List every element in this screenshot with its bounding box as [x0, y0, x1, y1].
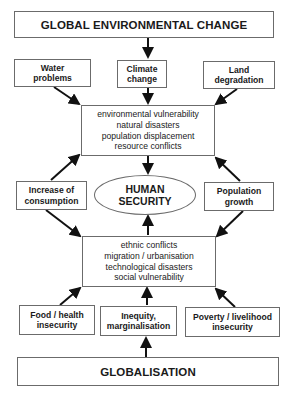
food-health-insecurity-box: Food / health insecurity [19, 305, 95, 335]
effect-migration-urbanisation: migration / urbanisation [104, 251, 193, 262]
arrow-land-to-effects [216, 89, 237, 104]
poverty-line2: insecurity [212, 322, 253, 333]
land-degradation-line1: Land [229, 65, 250, 76]
arrow-population-to-upper [216, 158, 240, 181]
effect-environmental-vulnerability: environmental vulnerability [97, 109, 199, 120]
food-health-line1: Food / health [30, 310, 83, 321]
poverty-line1: Poverty / livelihood [193, 312, 272, 323]
consumption-line1: Increase of [29, 185, 74, 196]
consumption-line2: consumption [25, 196, 79, 207]
land-degradation-line2: degradation [214, 75, 263, 86]
human-security-line1: HUMAN [125, 183, 164, 196]
environmental-effects-box: environmental vulnerability natural disa… [81, 105, 215, 156]
arrow-poverty-to-lower [216, 289, 235, 307]
human-security-line2: SECURITY [118, 195, 171, 208]
arrow-water-to-effects [54, 87, 79, 104]
arrow-food-to-lower [60, 288, 80, 305]
globalisation-label: GLOBALISATION [100, 366, 196, 378]
arrow-consumption-to-upper [51, 155, 79, 180]
climate-change-line2: change [127, 74, 157, 85]
land-degradation-box: Land degradation [203, 61, 275, 89]
population-line2: growth [225, 197, 254, 208]
global-environmental-change-box: GLOBAL ENVIRONMENTAL CHANGE [14, 11, 274, 38]
poverty-livelihood-insecurity-box: Poverty / livelihood insecurity [185, 307, 280, 337]
inequity-line2: marginalisation [107, 321, 171, 332]
human-security-ellipse: HUMAN SECURITY [94, 175, 196, 215]
arrow-consumption-to-lower [46, 210, 80, 236]
inequity-marginalisation-box: Inequity, marginalisation [100, 306, 177, 336]
effect-ethnic-conflicts: ethnic conflicts [121, 240, 177, 251]
effect-natural-disasters: natural disasters [116, 120, 179, 131]
effect-population-displacement: population displacement [102, 131, 195, 142]
food-health-line2: insecurity [37, 320, 78, 331]
population-growth-box: Population growth [204, 182, 274, 211]
population-line1: Population [217, 186, 261, 197]
climate-change-line1: Climate [126, 64, 157, 75]
water-problems-box: Water problems [14, 59, 91, 87]
inequity-line1: Inequity, [121, 311, 156, 322]
effect-resource-conflicts: resource conflicts [115, 141, 182, 152]
effect-technological-disasters: technological disasters [106, 262, 193, 273]
effect-social-vulnerability: social vulnerability [114, 272, 184, 283]
global-environmental-change-label: GLOBAL ENVIRONMENTAL CHANGE [41, 19, 248, 31]
social-effects-box: ethnic conflicts migration / urbanisatio… [82, 236, 216, 287]
arrow-population-to-lower [217, 211, 243, 236]
increase-of-consumption-box: Increase of consumption [16, 181, 87, 210]
climate-change-box: Climate change [117, 60, 167, 88]
water-problems-line2: problems [33, 73, 72, 84]
globalisation-box: GLOBALISATION [17, 357, 279, 386]
water-problems-line1: Water [41, 63, 65, 74]
